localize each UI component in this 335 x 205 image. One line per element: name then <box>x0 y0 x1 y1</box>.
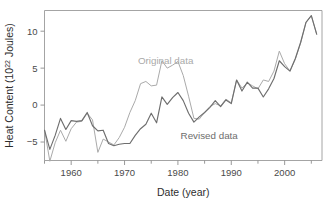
series-annotation: Original data <box>138 55 194 66</box>
chart-figure: −5051019601970198019902000Original dataR… <box>0 0 335 205</box>
y-tick-label: −5 <box>27 136 38 147</box>
y-tick-label: 0 <box>32 99 37 110</box>
x-tick-label: 1960 <box>61 167 82 178</box>
y-tick-label: 5 <box>32 63 37 74</box>
x-tick-label: 1980 <box>167 167 188 178</box>
x-tick-label: 2000 <box>274 167 295 178</box>
heat-content-line-chart: −5051019601970198019902000Original dataR… <box>0 0 335 205</box>
x-tick-label: 1970 <box>114 167 135 178</box>
svg-text:Heat Content (1022 Joules): Heat Content (1022 Joules) <box>3 23 15 148</box>
y-tick-label: 10 <box>27 26 38 37</box>
y-axis-title-tail: Joules) <box>3 23 15 60</box>
x-tick-label: 1990 <box>221 167 242 178</box>
y-axis-title-base: Heat Content (10 <box>3 68 15 148</box>
x-axis-title: Date (year) <box>157 186 210 198</box>
y-axis-title-exponent: 22 <box>4 60 11 68</box>
series-annotation: Revised data <box>181 130 239 141</box>
y-axis-title: Heat Content (1022 Joules) <box>3 23 15 148</box>
